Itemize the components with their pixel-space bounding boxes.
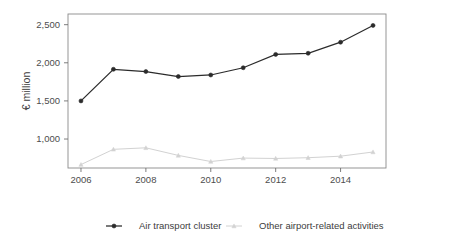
legend-item-air-transport-cluster[interactable]: Air transport cluster — [106, 220, 221, 231]
x-axis-tick-label: 2008 — [135, 174, 156, 185]
legend-item-other-airport-related-activities[interactable]: Other airport-related activities — [226, 220, 384, 231]
x-axis-tick-label: 2014 — [330, 174, 351, 185]
data-point — [79, 99, 83, 103]
line-chart: 1,0001,5002,0002,50020062008201020122014… — [0, 0, 451, 244]
x-axis-tick-label: 2006 — [70, 174, 91, 185]
y-axis-tick-label: 1,000 — [36, 133, 60, 144]
data-point — [111, 67, 115, 71]
data-point — [371, 23, 375, 27]
data-point — [339, 40, 343, 44]
plot-area-border — [68, 14, 386, 168]
legend-label: Other airport-related activities — [259, 220, 384, 231]
series-air-transport-cluster — [79, 23, 375, 102]
data-point — [274, 52, 278, 56]
x-axis-tick-label: 2012 — [265, 174, 286, 185]
legend-label: Air transport cluster — [139, 220, 221, 231]
y-axis-tick-label: 2,000 — [36, 57, 60, 68]
data-point — [209, 73, 213, 77]
data-point — [306, 51, 310, 55]
legend-swatch-marker — [112, 224, 116, 228]
data-point — [176, 75, 180, 79]
series-line — [81, 25, 373, 100]
data-point — [241, 66, 245, 70]
x-axis-tick-label: 2010 — [200, 174, 221, 185]
y-axis-title: € million — [20, 72, 32, 111]
chart-figure: 1,0001,5002,0002,50020062008201020122014… — [0, 0, 451, 244]
data-point — [144, 70, 148, 74]
series-line — [81, 148, 373, 165]
y-axis-tick-label: 1,500 — [36, 95, 60, 106]
series-other-airport-related-activities — [79, 146, 375, 167]
y-axis-tick-label: 2,500 — [36, 19, 60, 30]
